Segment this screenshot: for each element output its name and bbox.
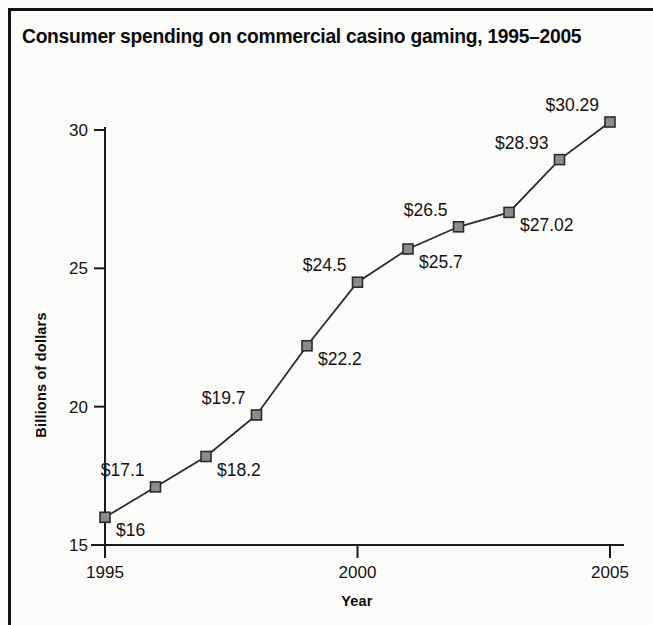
data-point-marker <box>151 482 161 492</box>
data-point-label: $27.02 <box>520 215 574 235</box>
data-point-label: $24.5 <box>303 255 347 275</box>
data-point-marker <box>302 341 312 351</box>
data-point-label: $16 <box>116 520 145 540</box>
x-axis-ticks: 199520002005 <box>86 545 629 582</box>
y-tick-label: 15 <box>69 536 88 555</box>
y-tick-label: 25 <box>69 259 88 278</box>
data-point-label: $25.7 <box>419 252 463 272</box>
line-chart-svg: 15202530 199520002005 $16$17.1$18.2$19.7… <box>0 0 653 625</box>
data-point-marker <box>504 207 514 217</box>
data-point-label: $22.2 <box>318 349 362 369</box>
data-point-label: $17.1 <box>101 460 145 480</box>
data-point-label: $26.5 <box>404 200 448 220</box>
data-point-labels: $16$17.1$18.2$19.7$22.2$24.5$25.7$26.5$2… <box>101 95 599 540</box>
x-tick-label: 2005 <box>591 563 629 582</box>
data-point-marker <box>201 452 211 462</box>
data-point-marker <box>403 244 413 254</box>
data-series-line <box>105 122 610 517</box>
y-tick-label: 20 <box>69 398 88 417</box>
plot-area: 15202530 199520002005 $16$17.1$18.2$19.7… <box>0 0 653 625</box>
data-point-label: $18.2 <box>217 460 261 480</box>
data-point-label: $30.29 <box>545 95 599 115</box>
y-axis-title: Billions of dollars <box>33 312 49 437</box>
data-point-marker <box>555 155 565 165</box>
data-point-marker <box>454 222 464 232</box>
x-axis-title: Year <box>341 593 373 609</box>
figure-container: Consumer spending on commercial casino g… <box>0 0 653 625</box>
data-point-label: $19.7 <box>202 388 246 408</box>
x-tick-label: 2000 <box>339 563 377 582</box>
data-point-marker <box>100 512 110 522</box>
data-point-marker <box>252 410 262 420</box>
data-point-marker <box>605 117 615 127</box>
y-tick-label: 30 <box>69 121 88 140</box>
data-point-markers <box>100 117 615 522</box>
y-axis-ticks: 15202530 <box>69 121 105 555</box>
data-point-marker <box>353 277 363 287</box>
data-point-label: $28.93 <box>495 133 549 153</box>
x-tick-label: 1995 <box>86 563 124 582</box>
chart-axes <box>91 127 624 545</box>
